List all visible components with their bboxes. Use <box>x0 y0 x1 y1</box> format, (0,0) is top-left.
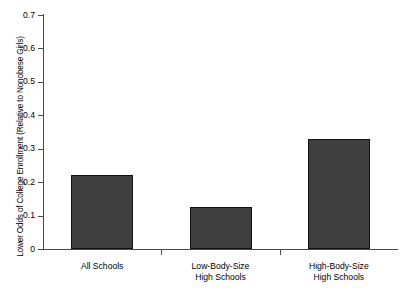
y-axis-line <box>43 14 44 250</box>
bar <box>71 175 133 249</box>
bar-chart-figure: Lower Odds of College Enrollment (Relati… <box>0 0 401 293</box>
y-axis-tick-label: 0.2 <box>5 178 35 187</box>
y-axis-tick-mark <box>38 82 43 83</box>
y-axis-tick-label: 0.6 <box>5 44 35 53</box>
y-axis-tick-label: 0.4 <box>5 111 35 120</box>
y-axis-tick-mark <box>38 15 43 16</box>
y-axis-tick-mark <box>38 216 43 217</box>
y-axis-tick-mark <box>38 182 43 183</box>
y-axis-tick-mark <box>38 115 43 116</box>
x-axis-tick-mark <box>161 250 162 255</box>
x-axis-category-label: Low-Body-Size High Schools <box>161 261 279 282</box>
x-axis-category-label: All Schools <box>43 261 161 272</box>
y-axis-tick-label: 0.7 <box>5 11 35 20</box>
y-axis-tick-label: 0 <box>5 245 35 254</box>
x-axis-category-label: High-Body-Size High Schools <box>280 261 398 282</box>
x-axis-tick-mark <box>280 250 281 255</box>
y-axis-tick-label: 0.3 <box>5 144 35 153</box>
bar <box>190 207 252 249</box>
y-axis-tick-label: 0.5 <box>5 77 35 86</box>
x-axis-line <box>43 249 398 250</box>
y-axis-tick-mark <box>38 48 43 49</box>
y-axis-tick-label: 0.1 <box>5 211 35 220</box>
bar <box>308 139 370 249</box>
y-axis-tick-mark <box>38 249 43 250</box>
y-axis-tick-mark <box>38 149 43 150</box>
